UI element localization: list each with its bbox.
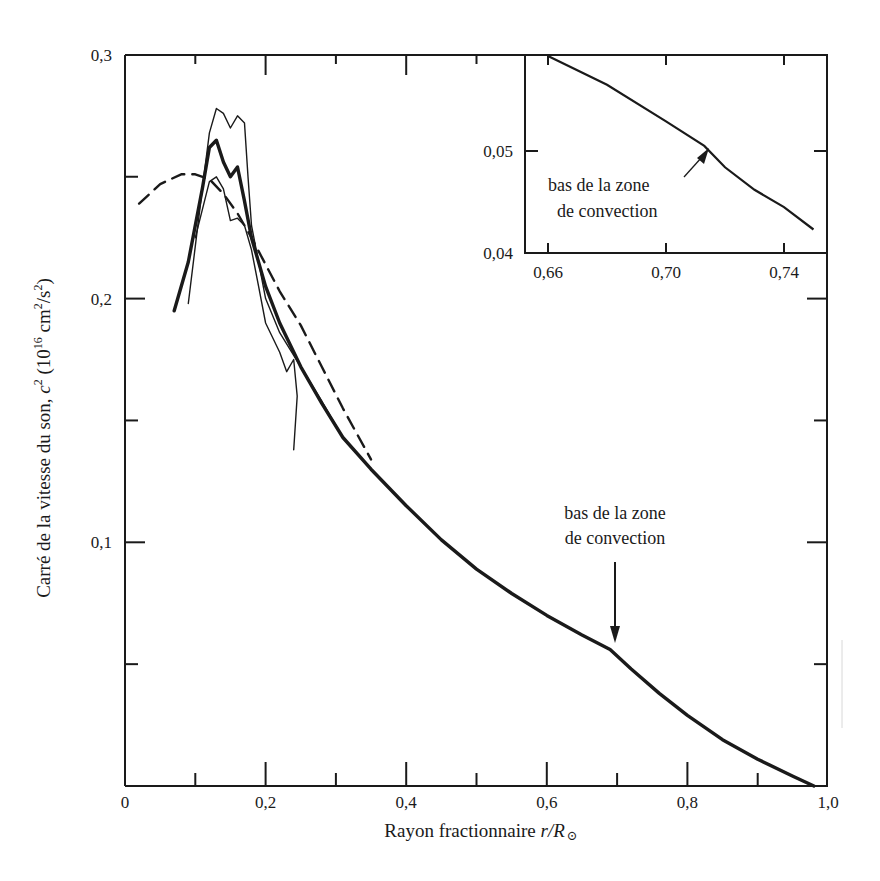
- main-annotation: bas de la zone de convection: [564, 503, 665, 643]
- y-tick-label: 0,1: [91, 533, 112, 552]
- inset-x-tick-label: 0,66: [533, 263, 563, 282]
- inset-annotation-line1: bas de la zone: [548, 175, 649, 195]
- inset-frame: [525, 55, 827, 253]
- x-tick-label: 0: [121, 793, 130, 812]
- series-thin-solid-1: [188, 109, 343, 438]
- inset-y-tick-label: 0,04: [483, 244, 513, 263]
- arrow-down-icon: [610, 626, 620, 643]
- x-tick-label: 1,0: [817, 793, 838, 812]
- x-tick-label: 0,6: [536, 793, 557, 812]
- x-tick-label: 0,8: [677, 793, 698, 812]
- inset-chart: 0,660,700,740,040,05 bas de la zone de c…: [483, 55, 827, 282]
- inset-y-tick-label: 0,05: [483, 142, 513, 161]
- annotation-line2: de convection: [565, 528, 665, 548]
- x-tick-label: 0,4: [396, 793, 418, 812]
- x-axis-label: Rayon fractionnaire r/R⊙: [384, 820, 577, 843]
- series-dashed-3: [139, 174, 371, 459]
- annotation-line1: bas de la zone: [564, 503, 665, 523]
- y-tick-label: 0,3: [91, 46, 112, 65]
- inset-x-tick-label: 0,70: [651, 263, 681, 282]
- inset-annotation-line2: de convection: [557, 201, 657, 221]
- y-tick-label: 0,2: [91, 290, 112, 309]
- inset-x-tick-label: 0,74: [769, 263, 799, 282]
- y-axis-label: Carré de la vitesse du son, c2 (1016 cm2…: [31, 278, 55, 598]
- chart-canvas: 00,20,40,60,81,00,10,20,3 bas de la zone…: [0, 0, 880, 881]
- x-tick-label: 0,2: [255, 793, 276, 812]
